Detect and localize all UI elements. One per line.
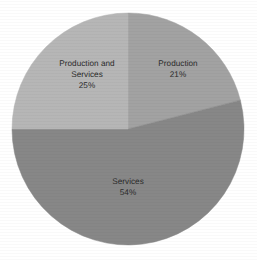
pie-slice-label-production: Production 21% [138, 58, 218, 80]
pie-chart-canvas [0, 0, 257, 260]
pie-slice-label-production-and-services-name-line-1: Production and [48, 58, 126, 69]
pie-slice-label-production-and-services: Production and Services 25% [48, 58, 126, 92]
pie-chart: Production 21% Production and Services 2… [0, 0, 257, 260]
pie-slice-label-services-value: 54% [88, 187, 168, 198]
pie-slice-label-services: Services 54% [88, 176, 168, 198]
pie-slice-label-production-value: 21% [138, 69, 218, 80]
pie-slices [12, 13, 244, 245]
pie-slice-label-services-name: Services [88, 176, 168, 187]
pie-slice-label-production-name: Production [138, 58, 218, 69]
pie-slice-label-production-and-services-value: 25% [48, 80, 126, 91]
pie-slice-label-production-and-services-name-line-2: Services [48, 69, 126, 80]
